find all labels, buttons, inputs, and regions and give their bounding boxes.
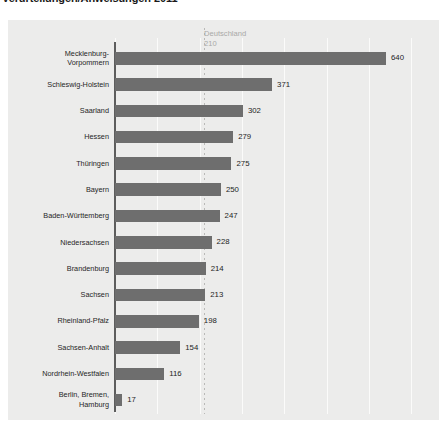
bar-rows: Mecklenburg- Vorpommern640Schleswig-Hols… [8, 45, 439, 413]
bar-row: Berlin, Bremen, Hamburg17 [8, 387, 439, 413]
bar[interactable] [115, 183, 221, 196]
bar-value-label: 214 [211, 264, 224, 273]
bar-row-label: Niedersachsen [0, 238, 109, 247]
chart-panel: Deutschland 210 Mecklenburg- Vorpommern6… [8, 20, 439, 420]
bar-row-label: Rheinland-Pfalz [0, 316, 109, 325]
bar-row-label: Sachsen [0, 290, 109, 299]
page-title: Verurteilungen/Anweisungen 2011 [2, 0, 177, 4]
bar-row: Thüringen275 [8, 150, 439, 176]
bar[interactable] [115, 52, 386, 65]
reference-label: Deutschland [204, 29, 246, 39]
bar-value-label: 250 [226, 185, 239, 194]
bar-row: Niedersachsen228 [8, 229, 439, 255]
bar-row: Bayern250 [8, 176, 439, 202]
bar-row: Sachsen213 [8, 282, 439, 308]
bar[interactable] [115, 341, 180, 354]
bar[interactable] [115, 315, 199, 328]
bar[interactable] [115, 210, 220, 223]
bar-value-label: 228 [217, 237, 230, 246]
bar-row-label: Thüringen [0, 159, 109, 168]
bar-value-label: 275 [236, 159, 249, 168]
bar-row-label: Baden-Württemberg [0, 211, 109, 220]
bar[interactable] [115, 78, 272, 91]
bar-row-label: Schleswig-Holstein [0, 80, 109, 89]
bar-value-label: 154 [185, 343, 198, 352]
bar-row: Baden-Württemberg247 [8, 203, 439, 229]
bar[interactable] [115, 394, 122, 407]
bar-row: Mecklenburg- Vorpommern640 [8, 45, 439, 71]
bar-value-label: 213 [210, 290, 223, 299]
bar-row: Sachsen-Anhalt154 [8, 334, 439, 360]
bar-value-label: 17 [127, 395, 136, 404]
bar-row-label: Berlin, Bremen, Hamburg [0, 390, 109, 408]
bar-row-label: Sachsen-Anhalt [0, 343, 109, 352]
bar-row: Saarland302 [8, 98, 439, 124]
bar-row: Nordrhein-Westfalen116 [8, 361, 439, 387]
bar-value-label: 116 [169, 369, 181, 378]
bar-row-label: Brandenburg [0, 264, 109, 273]
bar[interactable] [115, 105, 243, 118]
bar-row-label: Bayern [0, 185, 109, 194]
bar-row: Brandenburg214 [8, 255, 439, 281]
bar[interactable] [115, 236, 212, 249]
bar[interactable] [115, 262, 206, 275]
bar-row-label: Mecklenburg- Vorpommern [0, 49, 109, 67]
bar-row-label: Hessen [0, 132, 109, 141]
bar[interactable] [115, 131, 233, 144]
bar-row: Schleswig-Holstein371 [8, 71, 439, 97]
bar-value-label: 279 [238, 132, 251, 141]
bar-row: Hessen279 [8, 124, 439, 150]
bar-row: Rheinland-Pfalz198 [8, 308, 439, 334]
bar-value-label: 640 [391, 53, 404, 62]
bar[interactable] [115, 157, 231, 170]
bar-row-label: Nordrhein-Westfalen [0, 369, 109, 378]
chart-title-strip: Verurteilungen/Anweisungen 2011 [0, 0, 447, 11]
bar-value-label: 302 [248, 106, 261, 115]
bar[interactable] [115, 289, 205, 302]
bar-value-label: 247 [225, 211, 238, 220]
bar[interactable] [115, 368, 164, 381]
bar-row-label: Saarland [0, 106, 109, 115]
bar-value-label: 198 [204, 316, 217, 325]
bar-value-label: 371 [277, 80, 290, 89]
